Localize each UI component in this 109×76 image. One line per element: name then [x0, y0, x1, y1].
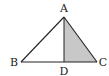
label-b: B — [10, 56, 18, 69]
segment-ab — [21, 17, 64, 62]
label-a: A — [59, 2, 69, 15]
label-c: C — [99, 56, 107, 69]
triangle-diagram: A B C D — [0, 0, 109, 76]
label-d: D — [60, 65, 69, 76]
